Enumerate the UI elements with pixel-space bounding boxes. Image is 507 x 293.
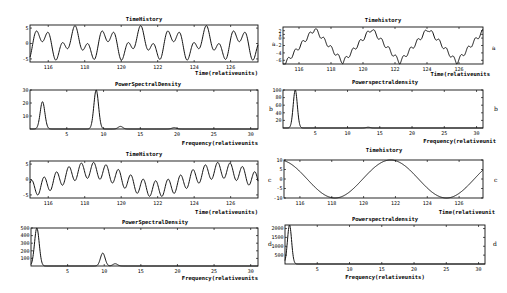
svg-text:10: 10 [345,130,351,136]
svg-text:1000: 1000 [271,243,283,249]
svg-text:5: 5 [314,130,317,136]
plot-frame [285,225,485,264]
panel-title: PowerSpectralDensity [115,81,182,88]
panel-letter-right: d [493,240,497,247]
svg-text:10: 10 [347,266,353,272]
svg-text:15: 15 [138,268,144,274]
svg-text:40: 40 [275,110,281,116]
panel-left-time-history-1: TimeHistory 116118120122124126 50-5 Time… [22,16,258,76]
svg-text:30: 30 [248,268,254,274]
svg-text:5: 5 [279,166,282,172]
svg-text:20: 20 [174,268,180,274]
psd-line [31,228,258,266]
svg-text:122: 122 [153,64,162,70]
panel-title: Powerspectraldensity [352,79,419,86]
svg-text:124: 124 [190,64,199,70]
panel-right-time-history-a: Timehistory 116118120122124126 210-2-4-6… [272,17,496,77]
svg-text:118: 118 [80,200,89,206]
svg-text:30: 30 [22,87,28,93]
svg-text:30: 30 [248,131,254,137]
panel-title: Timehistory [365,17,402,24]
svg-text:25: 25 [211,268,217,274]
svg-text:122: 122 [390,66,399,72]
figure-canvas: TimeHistory 116118120122124126 50-5 Time… [0,0,507,293]
svg-text:-5: -5 [22,192,28,198]
svg-text:2000: 2000 [271,225,283,231]
svg-text:118: 118 [326,66,335,72]
time-series-line [30,162,258,196]
y-ticks: 50-5 [22,161,258,198]
svg-text:126: 126 [455,200,464,206]
svg-text:10: 10 [22,113,28,119]
svg-text:80: 80 [275,94,281,100]
svg-text:-6: -6 [275,57,281,63]
svg-text:118: 118 [327,200,336,206]
svg-text:120: 120 [359,200,368,206]
svg-text:1500: 1500 [271,234,283,240]
svg-text:10: 10 [101,131,107,137]
svg-text:20: 20 [411,266,417,272]
svg-text:5: 5 [316,266,319,272]
y-ticks: 500400300200100 [20,225,258,261]
plot-frame [284,160,483,198]
svg-text:25: 25 [441,130,447,136]
panel-title: Powerspectraldensity [352,216,419,223]
time-series-line [284,160,483,198]
svg-text:0: 0 [279,176,282,182]
y-ticks: 1050-5-10 [273,157,483,201]
svg-text:5: 5 [65,131,68,137]
x-axis-label: Frequency(relativeunit [423,138,496,145]
svg-text:126: 126 [226,64,235,70]
svg-text:10: 10 [276,157,282,163]
plot-frame [31,228,258,266]
panel-letter-left: a [272,40,276,47]
panel-letter-left: c [268,176,272,183]
x-axis-label: Time(relativeunits) [195,70,258,76]
panel-left-time-history-2: TimeHistory 116118120122124126 50-5 Time… [22,151,258,215]
panel-left-psd-2: PowerSpectralDensity 51015202530 5004003… [20,219,258,282]
x-axis-label: Frequency(relativeunits [182,140,258,147]
svg-text:118: 118 [80,64,89,70]
panel-title: TimeHistory [126,151,163,158]
panel-title: PowerSpectralDensity [122,219,189,226]
svg-text:25: 25 [211,131,217,137]
svg-text:-2: -2 [275,42,281,48]
time-series-line [30,26,258,61]
svg-text:400: 400 [20,232,29,238]
x-ticks: 116118120122124126 [295,160,463,206]
svg-text:15: 15 [379,266,385,272]
x-ticks: 116118120122124126 [294,27,463,72]
panel-left-psd-1: PowerSpectralDensity 51015202530 302010 … [22,81,258,147]
panel-title: Timehistory [366,147,403,154]
svg-text:15: 15 [377,130,383,136]
svg-text:20: 20 [22,100,28,106]
psd-line [30,90,258,129]
panel-right-psd-d: Powerspectraldensity 51015202530 2000150… [268,216,497,281]
plot-frame [283,90,483,128]
panel-letter-left: b [269,105,273,112]
psd-line [285,225,485,264]
svg-text:300: 300 [20,240,29,246]
x-axis-label: Frequency(relativeunits) [345,274,424,281]
svg-text:25: 25 [443,266,449,272]
plot-frame [30,90,258,129]
svg-text:5: 5 [25,161,28,167]
panel-letter-right: b [494,105,498,112]
panel-letter-right: c [494,176,498,183]
panel-letter-left: d [268,240,272,247]
x-axis-label: Time(relativeunit [439,209,495,215]
time-series-line [283,29,483,64]
svg-text:15: 15 [137,131,143,137]
svg-text:122: 122 [153,200,162,206]
svg-text:124: 124 [423,200,432,206]
svg-text:100: 100 [20,255,29,261]
svg-text:116: 116 [294,66,303,72]
y-ticks: 10080604020 [272,87,483,123]
svg-text:122: 122 [391,200,400,206]
psd-line [283,90,483,128]
svg-text:-5: -5 [276,185,282,191]
svg-text:116: 116 [44,200,53,206]
svg-text:10: 10 [101,268,107,274]
x-ticks: 51015202530 [314,90,480,136]
svg-text:116: 116 [295,200,304,206]
